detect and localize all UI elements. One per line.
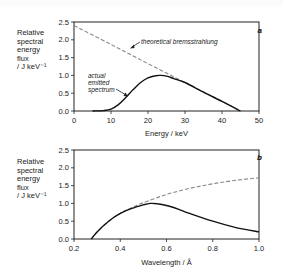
y-tick-label: 2.5 xyxy=(59,146,69,155)
y-tick-label: 0.5 xyxy=(59,217,69,226)
x-tick-label: 20 xyxy=(144,116,152,125)
y-tick-label: 1.0 xyxy=(59,199,69,208)
x-tick-label: 1.0 xyxy=(254,244,264,253)
x-tick-label: 0.4 xyxy=(115,244,125,253)
charts-canvas: 0.00.51.01.52.02.5 01020304050 Energy / … xyxy=(0,0,283,280)
x-tick-label: 0 xyxy=(72,116,76,125)
y-tick-label: 2.0 xyxy=(59,35,69,44)
x-tick-label: 0.8 xyxy=(208,244,218,253)
y-tick-label: 2.5 xyxy=(59,18,69,27)
y-ticks-b: 0.00.51.01.52.02.5 xyxy=(59,146,74,244)
x-tick-label: 40 xyxy=(218,116,226,125)
y-tick-label: 0.5 xyxy=(59,89,69,98)
y-tick-label: 1.0 xyxy=(59,71,69,80)
annotation-line: actual xyxy=(88,72,106,79)
y-tick-label: 0.0 xyxy=(59,107,69,116)
x-tick-label: 10 xyxy=(107,116,115,125)
actual-spectrum-line-b xyxy=(91,203,259,239)
y-tick-label: 1.5 xyxy=(59,53,69,62)
x-tick-label: 0.6 xyxy=(161,244,171,253)
y-tick-label: 0.0 xyxy=(59,235,69,244)
plot-frame-b xyxy=(74,150,259,239)
x-tick-label: 0.2 xyxy=(69,244,79,253)
chart-b: 0.00.51.01.52.02.5 0.20.40.60.81.0 Wavel… xyxy=(59,146,265,267)
chart-a: 0.00.51.01.52.02.5 01020304050 Energy / … xyxy=(59,18,264,138)
annotation-bremsstrahlung: theoretical bremsstrahlung xyxy=(141,38,218,46)
x-ticks-b: 0.20.40.60.81.0 xyxy=(69,239,264,253)
actual-spectrum-line-a xyxy=(93,75,241,111)
x-tick-label: 30 xyxy=(181,116,189,125)
annotation-actual-spectrum: actual emitted spectrum xyxy=(88,72,115,94)
x-axis-label-b: Wavelength / Å xyxy=(141,258,192,267)
x-tick-label: 50 xyxy=(255,116,263,125)
annotation-line: spectrum xyxy=(88,86,115,94)
x-axis-label-a: Energy / keV xyxy=(145,129,188,138)
plot-frame-a xyxy=(74,22,259,111)
annotation-arrow-spectrum xyxy=(116,89,126,95)
y-ticks-a: 0.00.51.01.52.02.5 xyxy=(59,18,74,116)
arrow-head-icon xyxy=(124,93,129,97)
arrow-head-icon xyxy=(130,45,135,49)
y-tick-label: 2.0 xyxy=(59,163,69,172)
panel-label-b: b xyxy=(257,153,262,162)
x-ticks-a: 01020304050 xyxy=(72,111,263,125)
annotation-line: emitted xyxy=(88,79,110,86)
y-tick-label: 1.5 xyxy=(59,181,69,190)
panel-label-a: a xyxy=(258,26,263,35)
